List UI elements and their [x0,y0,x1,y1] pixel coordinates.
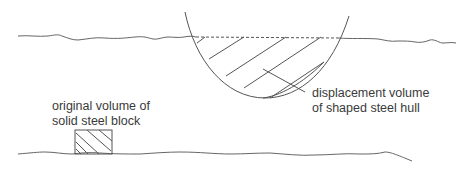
hull-label: displacement volume of shaped steel hull [312,86,429,116]
waterline-dashed [196,37,339,38]
water-surface-upper-left [18,35,196,40]
water-surface-upper-right [339,38,456,43]
block-label-line2: solid steel block [52,114,150,129]
hull-label-line2: of shaped steel hull [312,101,429,116]
block-label-line1: original volume of [52,99,150,114]
block-label: original volume of solid steel block [52,99,150,129]
displacement-hatch [197,37,324,98]
block-hatch [76,130,112,154]
ground-line [18,152,412,161]
steel-block [75,130,112,154]
hull-label-line1: displacement volume [312,86,429,101]
